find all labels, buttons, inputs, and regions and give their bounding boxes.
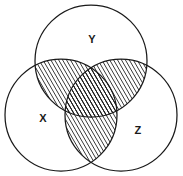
venn-diagram-figure: X Y Z [0, 0, 183, 176]
venn-diagram-canvas: X Y Z [0, 0, 183, 176]
set-label-x: X [39, 112, 47, 124]
set-label-y: Y [88, 33, 96, 45]
set-label-z: Z [135, 124, 142, 136]
